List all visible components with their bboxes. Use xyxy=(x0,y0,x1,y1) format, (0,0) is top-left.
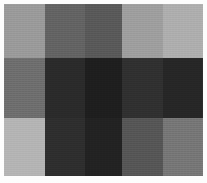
grayscale-grid xyxy=(4,4,203,176)
cell-r2c4 xyxy=(122,58,163,118)
image-canvas xyxy=(0,0,207,183)
cell-r3c1 xyxy=(4,118,45,176)
cell-r2c1 xyxy=(4,58,45,118)
cell-r1c2 xyxy=(45,4,85,58)
cell-r3c3 xyxy=(85,118,122,176)
cell-r2c2 xyxy=(45,58,85,118)
cell-r1c3 xyxy=(85,4,122,58)
cell-r1c5 xyxy=(163,4,203,58)
cell-r3c4 xyxy=(122,118,163,176)
cell-r1c1 xyxy=(4,4,45,58)
cell-r2c3 xyxy=(85,58,122,118)
cell-r3c2 xyxy=(45,118,85,176)
cell-r2c5 xyxy=(163,58,203,118)
cell-r1c4 xyxy=(122,4,163,58)
cell-r3c5 xyxy=(163,118,203,176)
